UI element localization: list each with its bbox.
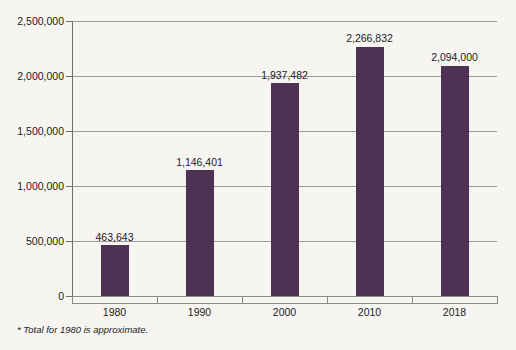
- bar-1980: [101, 245, 129, 296]
- x-tick-2: [242, 296, 243, 304]
- y-axis-labels: 2,500,000 2,000,000 1,500,000 1,000,000 …: [0, 0, 64, 350]
- x-axis-line: [72, 303, 497, 304]
- bar-value-1980: 463,643: [96, 232, 134, 243]
- x-axis-label-2000: 2000: [273, 307, 296, 318]
- y-tick-2500000: [66, 21, 72, 22]
- y-axis-label-1500000: 1,500,000: [2, 126, 64, 137]
- gridline-2500000: [72, 21, 497, 22]
- y-tick-500000: [66, 241, 72, 242]
- x-axis-label-2018: 2018: [443, 307, 466, 318]
- y-axis-label-0: 0: [2, 291, 64, 302]
- x-tick-end: [497, 296, 498, 304]
- x-tick-3: [327, 296, 328, 304]
- y-axis-label-500000: 500,000: [2, 236, 64, 247]
- bar-value-2010: 2,266,832: [346, 33, 393, 44]
- bar-1990: [186, 170, 214, 296]
- x-axis-label-2010: 2010: [358, 307, 381, 318]
- gridline-0: [72, 296, 497, 297]
- x-tick-4: [412, 296, 413, 304]
- chart-footnote: * Total for 1980 is approximate.: [17, 324, 148, 335]
- bar-chart-figure: 2,500,000 2,000,000 1,500,000 1,000,000 …: [0, 0, 516, 350]
- y-tick-1500000: [66, 131, 72, 132]
- y-axis-label-2000000: 2,000,000: [2, 71, 64, 82]
- x-tick-start: [72, 296, 73, 304]
- y-axis-label-2500000: 2,500,000: [2, 16, 64, 27]
- y-tick-1000000: [66, 186, 72, 187]
- bar-value-2000: 1,937,482: [261, 70, 308, 81]
- bar-2018: [441, 66, 469, 296]
- y-axis-line: [72, 21, 73, 297]
- x-tick-1: [157, 296, 158, 304]
- bar-2000: [271, 83, 299, 296]
- x-axis-label-1980: 1980: [103, 307, 126, 318]
- bar-2010: [356, 47, 384, 296]
- x-axis-label-1990: 1990: [188, 307, 211, 318]
- bar-value-1990: 1,146,401: [176, 157, 223, 168]
- y-tick-2000000: [66, 76, 72, 77]
- y-axis-label-1000000: 1,000,000: [2, 181, 64, 192]
- bar-value-2018: 2,094,000: [431, 52, 478, 63]
